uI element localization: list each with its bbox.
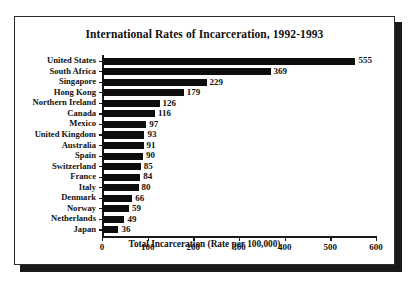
category-label: Italy (0, 182, 96, 193)
category-label: Canada (0, 108, 96, 119)
x-axis-title: Total Incarceration (Rate per 100,000) (15, 239, 394, 249)
bar-value-label: 369 (274, 66, 288, 77)
bar-value-label: 85 (144, 161, 153, 172)
bar-row: United Kingdom93 (102, 130, 376, 141)
category-label: Australia (0, 140, 96, 151)
bar-row: Spain90 (102, 151, 376, 162)
bar-value-label: 84 (143, 171, 152, 182)
bar-value-label: 66 (135, 193, 144, 204)
bar-row: Singapore229 (102, 77, 376, 88)
category-label: South Africa (0, 66, 96, 77)
bar (102, 195, 132, 202)
bar-value-label: 93 (147, 129, 156, 140)
bar-value-label: 91 (147, 140, 156, 151)
bar-value-label: 229 (210, 77, 224, 88)
bar-row: United States555 (102, 56, 376, 67)
category-label: Denmark (0, 192, 96, 203)
category-label-wrap: Japan (0, 225, 96, 236)
bar (102, 110, 155, 117)
bar (102, 58, 355, 65)
bar-row: Netherlands49 (102, 214, 376, 225)
bar-row: Mexico97 (102, 119, 376, 130)
bar (102, 100, 160, 107)
category-label: Northern Ireland (0, 97, 96, 108)
category-label: United States (0, 55, 96, 66)
category-label: United Kingdom (0, 129, 96, 140)
bar-row: Italy80 (102, 183, 376, 194)
bar (102, 163, 141, 170)
bar-value-label: 90 (146, 150, 155, 161)
bar-row: Hong Kong179 (102, 88, 376, 99)
category-label: Japan (0, 224, 96, 235)
bar-row: Northern Ireland126 (102, 98, 376, 109)
bar (102, 184, 139, 191)
bar (102, 68, 271, 75)
category-label: Switzerland (0, 161, 96, 172)
category-label: Spain (0, 150, 96, 161)
bar-value-label: 36 (121, 224, 130, 235)
bar-value-label: 59 (132, 203, 141, 214)
bar (102, 226, 118, 233)
bar (102, 216, 124, 223)
bar-row: South Africa369 (102, 67, 376, 78)
bar-row: Denmark66 (102, 193, 376, 204)
bar-value-label: 49 (127, 214, 136, 225)
chart-figure: International Rates of Incarceration, 19… (14, 16, 395, 265)
category-label: France (0, 171, 96, 182)
category-label: Norway (0, 203, 96, 214)
bar-value-label: 555 (358, 55, 372, 66)
bar (102, 153, 143, 160)
bar-row: Switzerland85 (102, 162, 376, 173)
bar (102, 205, 129, 212)
bar-row: Australia91 (102, 140, 376, 151)
category-label: Singapore (0, 76, 96, 87)
bar-row: Japan36 (102, 225, 376, 236)
bar-row: Norway59 (102, 204, 376, 215)
bar-value-label: 97 (149, 119, 158, 130)
bar-row: Canada116 (102, 109, 376, 120)
bar-row: France84 (102, 172, 376, 183)
category-label: Netherlands (0, 213, 96, 224)
bar (102, 131, 144, 138)
plot-area: United States555South Africa369Singapore… (102, 55, 376, 233)
category-label: Mexico (0, 118, 96, 129)
bar (102, 174, 140, 181)
bar-value-label: 179 (187, 87, 201, 98)
bar (102, 79, 207, 86)
bar-value-label: 126 (163, 98, 177, 109)
bar-value-label: 80 (142, 182, 151, 193)
category-label: Hong Kong (0, 87, 96, 98)
bar (102, 142, 144, 149)
bar (102, 89, 184, 96)
bar (102, 121, 146, 128)
bar-value-label: 116 (158, 108, 171, 119)
chart-title: International Rates of Incarceration, 19… (15, 28, 394, 40)
